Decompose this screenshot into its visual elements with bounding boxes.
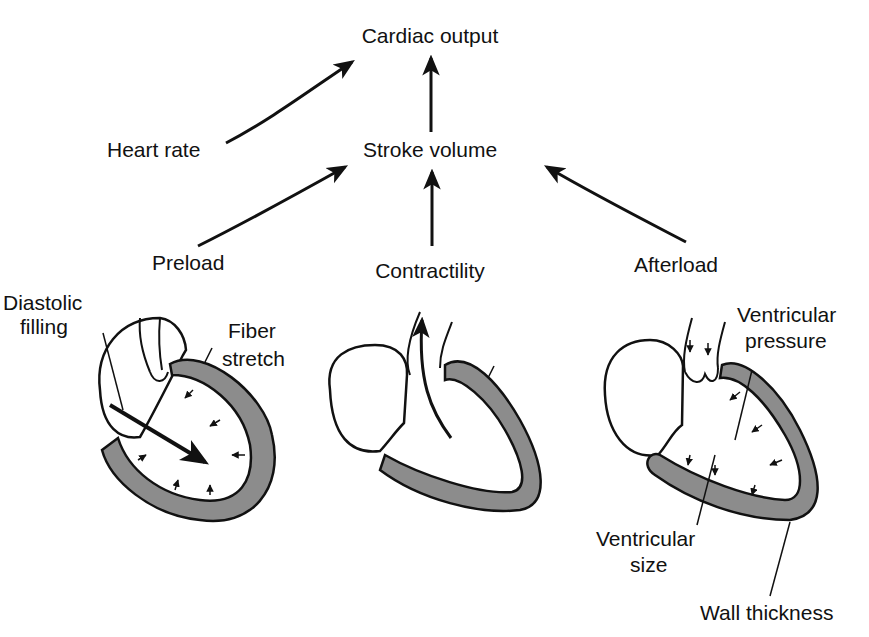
arrow-heartrate-to-co bbox=[226, 62, 352, 143]
atrium-icon bbox=[99, 318, 186, 437]
wall-thickness-label: Wall thickness bbox=[700, 601, 833, 624]
ventricular-size-label-2: size bbox=[630, 553, 667, 576]
diastolic-label-2: filling bbox=[20, 315, 68, 338]
preload-label: Preload bbox=[152, 251, 224, 274]
ventricular-size-label-1: Ventricular bbox=[596, 527, 695, 550]
ventricular-pressure-label-2: pressure bbox=[745, 329, 827, 352]
diagram-svg: Cardiac output Heart rate Stroke volume … bbox=[0, 0, 869, 637]
cardiac-output-diagram: Cardiac output Heart rate Stroke volume … bbox=[0, 0, 869, 637]
fiber-label-2: stretch bbox=[222, 347, 285, 370]
heart-afterload: Ventricular pressure Ventricular size Wa… bbox=[596, 303, 836, 624]
cardiac-output-label: Cardiac output bbox=[362, 24, 499, 47]
afterload-label: Afterload bbox=[634, 253, 718, 276]
heart-preload: Diastolic filling Fiber stretch bbox=[3, 291, 285, 521]
heart-contractility bbox=[329, 312, 540, 511]
arrow-preload-to-sv bbox=[198, 167, 345, 246]
stroke-volume-label: Stroke volume bbox=[363, 138, 497, 161]
diastolic-label-1: Diastolic bbox=[3, 291, 82, 314]
ventricular-pressure-label-1: Ventricular bbox=[737, 303, 836, 326]
fiber-label-1: Fiber bbox=[228, 319, 276, 342]
heart-rate-label: Heart rate bbox=[107, 138, 200, 161]
atrium-icon bbox=[329, 345, 407, 451]
arrow-afterload-to-sv bbox=[547, 167, 686, 242]
contractility-label: Contractility bbox=[375, 259, 485, 282]
atrium-icon bbox=[605, 340, 683, 456]
